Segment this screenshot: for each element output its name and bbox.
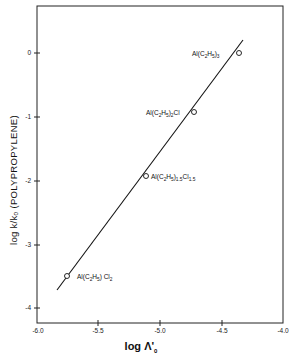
- point-label-al-et3: Al(C2H5)3: [192, 50, 220, 59]
- x-tick-label: -5.0: [154, 327, 166, 334]
- x-tick-label: -6.0: [32, 327, 44, 334]
- plot-frame: [37, 6, 283, 323]
- chart-canvas: 0 -1 -2 -3 -4 -6.0 -5.5 -5.0 -4.5 -4.0 A…: [0, 0, 296, 357]
- point-label-al-et15-cl15: Al(C2H5)1.5Cl1.5: [151, 173, 196, 182]
- x-tick-label: -4.0: [277, 327, 289, 334]
- x-axis-title: log Λ'ₒ: [125, 340, 159, 354]
- data-point-al-et2-cl: [192, 110, 197, 115]
- point-label-al-et2-cl: Al(C2H5)2Cl: [146, 109, 180, 118]
- point-label-al-et-cl2: Al(C2H5) Cl2: [77, 273, 113, 282]
- y-tick-label: -3: [25, 241, 31, 248]
- y-tick-label: 0: [27, 49, 31, 56]
- fit-line: [57, 40, 243, 290]
- y-tick-labels: 0 -1 -2 -3 -4: [25, 49, 31, 311]
- data-point-al-et-cl2: [65, 274, 70, 279]
- y-axis-title: log k/kₒ (POLYPROPYLENE): [8, 115, 19, 245]
- x-tick-label: -4.5: [216, 327, 228, 334]
- data-point-al-et15-cl15: [144, 174, 149, 179]
- y-tick-label: -4: [25, 304, 31, 311]
- x-tick-label: -5.5: [92, 327, 104, 334]
- data-point-al-et3: [237, 51, 242, 56]
- y-tick-label: -2: [25, 177, 31, 184]
- x-tick-labels: -6.0 -5.5 -5.0 -4.5 -4.0: [32, 327, 289, 334]
- y-tick-label: -1: [25, 113, 31, 120]
